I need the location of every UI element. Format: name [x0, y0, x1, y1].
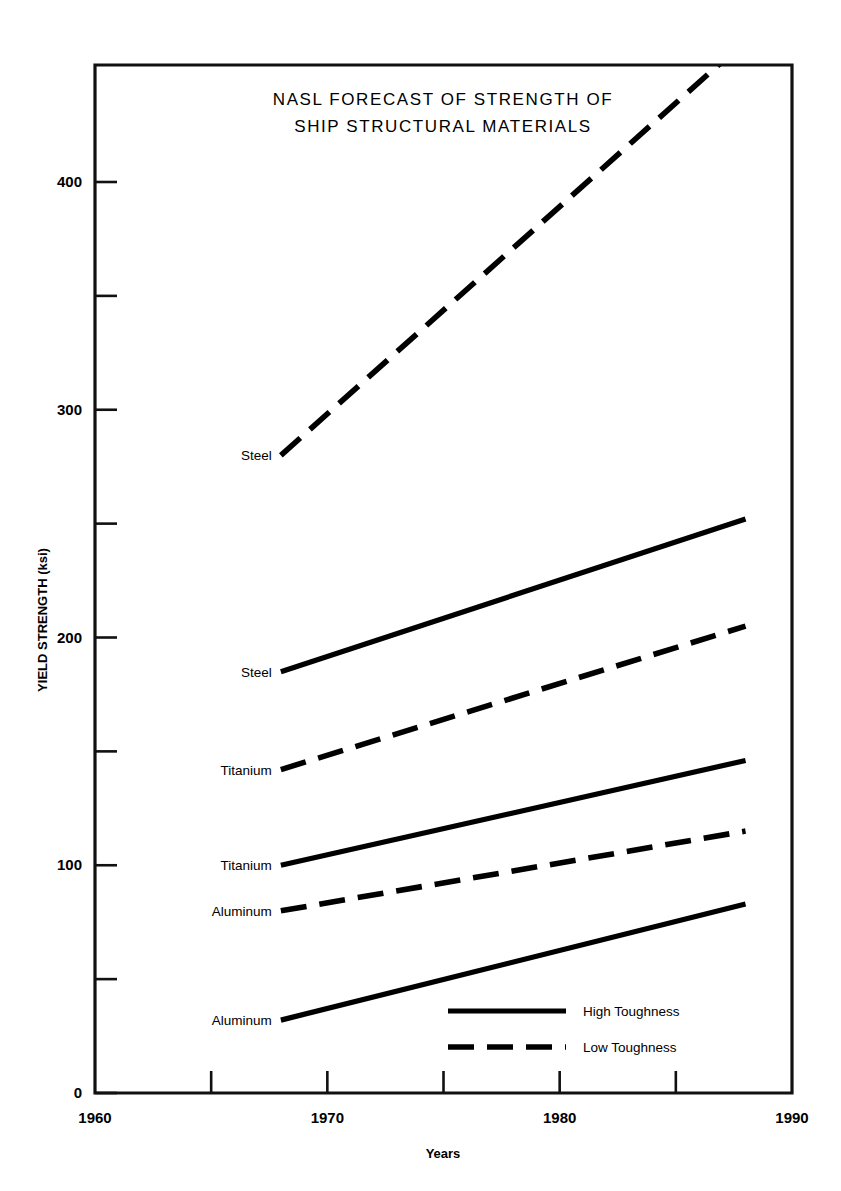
y-tick-label: 200 [57, 629, 82, 646]
series-label-aluminum-high-toughness: Aluminum [212, 1013, 272, 1028]
legend-label-high-toughness: High Toughness [583, 1004, 680, 1019]
x-axis-title: Years [426, 1146, 461, 1161]
line-chart-svg: 0100200300400 1960197019801990 SteelStee… [0, 0, 841, 1191]
series-label-steel-high-toughness: Steel [241, 665, 272, 680]
chart-title-line-1: NASL FORECAST OF STRENGTH OF [273, 90, 613, 109]
x-axis-ticks [211, 1071, 676, 1093]
series-label-titanium-low-toughness: Titanium [221, 763, 272, 778]
plot-frame [95, 65, 792, 1093]
chart-title: NASL FORECAST OF STRENGTH OF SHIP STRUCT… [273, 90, 613, 136]
y-axis-ticks [95, 182, 117, 1093]
x-tick-label: 1960 [78, 1109, 111, 1126]
series-label-steel-low-toughness: Steel [241, 448, 272, 463]
series-labels-group: SteelSteelTitaniumTitaniumAluminumAlumin… [212, 448, 272, 1028]
x-axis-tick-labels: 1960197019801990 [78, 1109, 808, 1126]
series-lines-group [281, 41, 746, 1020]
series-label-aluminum-low-toughness: Aluminum [212, 904, 272, 919]
series-line-titanium-high-toughness [281, 760, 746, 865]
y-tick-label: 0 [74, 1084, 82, 1101]
series-line-aluminum-low-toughness [281, 831, 746, 911]
series-label-titanium-high-toughness: Titanium [221, 858, 272, 873]
chart-legend: High Toughness Low Toughness [448, 1004, 680, 1055]
y-axis-tick-labels: 0100200300400 [57, 173, 82, 1101]
x-tick-label: 1990 [775, 1109, 808, 1126]
chart-figure: 0100200300400 1960197019801990 SteelStee… [0, 0, 841, 1191]
y-tick-label: 300 [57, 401, 82, 418]
x-tick-label: 1970 [311, 1109, 344, 1126]
legend-label-low-toughness: Low Toughness [583, 1040, 677, 1055]
chart-title-line-2: SHIP STRUCTURAL MATERIALS [294, 117, 592, 136]
y-tick-label: 100 [57, 856, 82, 873]
y-tick-label: 400 [57, 173, 82, 190]
y-axis-title: YIELD STRENGTH (ksi) [35, 548, 50, 692]
x-tick-label: 1980 [543, 1109, 576, 1126]
series-line-aluminum-high-toughness [281, 904, 746, 1020]
